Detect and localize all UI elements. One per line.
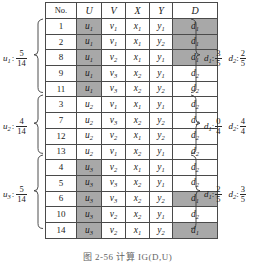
- value-v: v2: [110, 209, 117, 219]
- cell-x: x2: [126, 175, 150, 191]
- value-v: v2: [110, 162, 117, 172]
- cell-y: y2: [150, 222, 173, 238]
- fraction: 25: [215, 185, 221, 204]
- cell-v: v2: [102, 207, 126, 223]
- value-x: x1: [134, 52, 141, 62]
- fraction: 414: [16, 117, 27, 136]
- cell-u: u1: [77, 50, 102, 66]
- group-brace-right: [190, 18, 201, 94]
- cell-no: 10: [46, 207, 77, 223]
- cell-no: 14: [46, 222, 77, 238]
- cell-y: y2: [150, 191, 173, 207]
- figure-caption: 图 2-56 计算 IG(D,U): [0, 250, 255, 262]
- cell-y: y1: [150, 160, 173, 176]
- column-header-d: D: [173, 3, 218, 19]
- value-x: x1: [134, 21, 141, 31]
- cell-no: 6: [46, 191, 77, 207]
- cell-no: 5: [46, 175, 77, 191]
- cell-u: u3: [77, 160, 102, 176]
- cell-no: 8: [46, 50, 77, 66]
- value-u: u2: [85, 115, 93, 125]
- value-v: v3: [110, 83, 117, 93]
- cell-x: x2: [126, 113, 150, 129]
- fraction: 35: [215, 49, 221, 68]
- value-x: x2: [134, 146, 141, 156]
- column-header-v: V: [102, 3, 126, 19]
- column-header-x: X: [126, 3, 150, 19]
- decision-ratio: d2:25: [229, 49, 248, 68]
- group-brace-left: [33, 18, 44, 94]
- cell-v: v2: [102, 160, 126, 176]
- cell-x: x2: [126, 66, 150, 82]
- group-left-variable: u2: [3, 121, 11, 131]
- column-header-y: Y: [150, 3, 173, 19]
- value-u: u2: [85, 99, 93, 109]
- decision-variable: d1: [204, 189, 212, 199]
- decision-variable: d1: [204, 53, 212, 63]
- cell-x: x2: [126, 191, 150, 207]
- decision-variable: d2: [229, 53, 237, 63]
- decision-ratio: d2:44: [229, 117, 248, 136]
- cell-v: v2: [102, 128, 126, 144]
- cell-x: x2: [126, 207, 150, 223]
- cell-x: x2: [126, 81, 150, 97]
- value-y: y1: [157, 162, 164, 172]
- group-left-label: u1:514: [3, 49, 28, 68]
- decision-variable: d1: [204, 121, 212, 131]
- cell-x: x1: [126, 50, 150, 66]
- value-v: v2: [110, 130, 117, 140]
- value-v: v2: [110, 225, 117, 235]
- group-left-label: u2:414: [3, 117, 28, 136]
- value-u: u1: [85, 52, 93, 62]
- cell-y: y1: [150, 50, 173, 66]
- cell-u: u2: [77, 144, 102, 160]
- value-v: v3: [110, 177, 117, 187]
- group-left-variable: u3: [3, 189, 11, 199]
- group-right-label: d1:35d2:25: [204, 49, 247, 68]
- value-y: y2: [157, 193, 164, 203]
- cell-u: u2: [77, 113, 102, 129]
- cell-v: v3: [102, 191, 126, 207]
- value-y: y1: [157, 99, 164, 109]
- cell-u: u1: [77, 19, 102, 35]
- cell-y: y2: [150, 128, 173, 144]
- value-u: u2: [85, 130, 93, 140]
- cell-y: y1: [150, 207, 173, 223]
- cell-no: 3: [46, 97, 77, 113]
- fraction: 04: [215, 117, 221, 136]
- cell-x: x1: [126, 34, 150, 50]
- group-brace-left: [33, 154, 44, 230]
- cell-x: x1: [126, 128, 150, 144]
- cell-y: y1: [150, 175, 173, 191]
- value-y: y1: [157, 52, 164, 62]
- value-x: x1: [134, 99, 141, 109]
- cell-u: u1: [77, 34, 102, 50]
- value-v: v1: [110, 146, 117, 156]
- value-u: u3: [85, 225, 93, 235]
- cell-no: 2: [46, 34, 77, 50]
- value-v: v1: [110, 36, 117, 46]
- group-brace-right: [190, 154, 201, 230]
- value-u: u1: [85, 68, 93, 78]
- cell-x: x1: [126, 19, 150, 35]
- value-v: v3: [110, 68, 117, 78]
- group-brace-right: [190, 94, 201, 154]
- value-x: x2: [134, 209, 141, 219]
- decision-variable: d2: [229, 189, 237, 199]
- cell-v: v3: [102, 66, 126, 82]
- value-v: v3: [110, 193, 117, 203]
- cell-u: u2: [77, 97, 102, 113]
- group-left-variable: u1: [3, 53, 11, 63]
- value-y: y1: [157, 209, 164, 219]
- column-header-u: U: [77, 3, 102, 19]
- cell-v: v2: [102, 222, 126, 238]
- cell-y: y1: [150, 66, 173, 82]
- value-x: x2: [134, 193, 141, 203]
- value-x: x1: [134, 225, 141, 235]
- cell-v: v1: [102, 97, 126, 113]
- value-x: x2: [134, 83, 141, 93]
- value-u: u3: [85, 177, 93, 187]
- value-x: x2: [134, 115, 141, 125]
- value-y: y1: [157, 68, 164, 78]
- value-x: x1: [134, 162, 141, 172]
